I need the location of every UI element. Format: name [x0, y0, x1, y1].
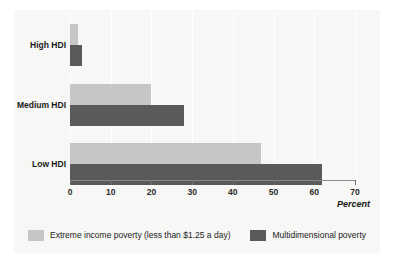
x-axis-tick [111, 180, 112, 185]
legend-label: Extreme income poverty (less than $1.25 … [50, 230, 230, 240]
chart-legend: Extreme income poverty (less than $1.25 … [14, 227, 380, 243]
legend-item-multidimensional-poverty[interactable]: Multidimensional poverty [250, 230, 366, 241]
x-axis-tick-label: 20 [147, 187, 156, 197]
gridline [355, 12, 356, 180]
x-axis-tick [151, 180, 152, 185]
bar [70, 45, 82, 66]
x-axis-tick [233, 180, 234, 185]
gridline [274, 12, 275, 180]
bar [70, 164, 322, 185]
bar [70, 143, 261, 164]
category-label: High HDI [30, 40, 66, 50]
legend-label: Multidimensional poverty [272, 230, 366, 240]
category-label: Low HDI [32, 159, 66, 169]
x-axis-tick-label: 0 [68, 187, 73, 197]
x-axis-title: Percent [337, 199, 370, 209]
x-axis-tick [355, 180, 356, 185]
category-label: Medium HDI [17, 100, 66, 110]
x-axis-tick [70, 180, 71, 185]
bar [70, 84, 151, 105]
x-axis-tick-label: 50 [269, 187, 278, 197]
x-axis-tick [192, 180, 193, 185]
x-axis-tick [314, 180, 315, 185]
x-axis-tick [274, 180, 275, 185]
x-axis-tick-label: 60 [310, 187, 319, 197]
x-axis-tick-label: 40 [228, 187, 237, 197]
bar [70, 105, 184, 126]
plot-area [70, 12, 355, 180]
bar [70, 24, 78, 45]
chart-figure: 010203040506070 High HDIMedium HDILow HD… [0, 0, 394, 261]
legend-swatch-icon-light [28, 230, 44, 241]
x-axis-line [70, 180, 356, 181]
gridline [314, 12, 315, 180]
legend-item-extreme-income-poverty[interactable]: Extreme income poverty (less than $1.25 … [28, 230, 230, 241]
x-axis-tick-label: 30 [187, 187, 196, 197]
legend-swatch-icon-dark [250, 230, 266, 241]
x-axis-tick-label: 10 [106, 187, 115, 197]
x-axis-tick-label: 70 [350, 187, 359, 197]
